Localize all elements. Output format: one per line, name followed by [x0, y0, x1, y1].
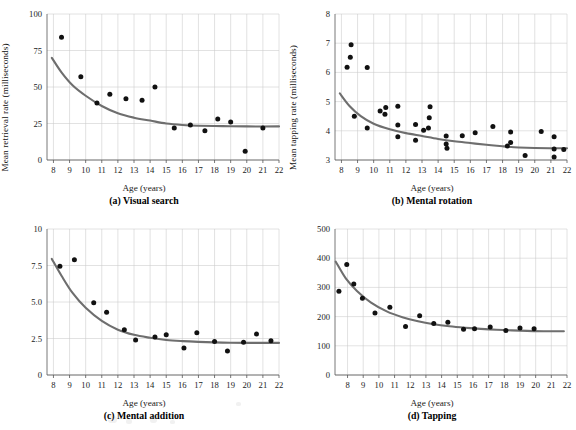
data-point [532, 326, 537, 331]
panel-caption-c: (c) Mental addition [0, 410, 288, 421]
svg-text:25: 25 [33, 119, 42, 129]
data-point [260, 125, 265, 130]
svg-text:13: 13 [422, 380, 431, 390]
x-tick-labels: 8910111213141516171819202122 [51, 160, 283, 175]
svg-text:17: 17 [194, 380, 203, 390]
svg-text:400: 400 [317, 253, 330, 263]
data-point [383, 105, 388, 110]
data-point [461, 327, 466, 332]
axis-lines [335, 14, 567, 160]
data-point [225, 348, 230, 353]
svg-text:15: 15 [453, 380, 462, 390]
svg-text:10: 10 [81, 380, 90, 390]
svg-text:14: 14 [437, 380, 446, 390]
data-point [372, 311, 377, 316]
data-point [473, 130, 478, 135]
svg-text:12: 12 [114, 380, 123, 390]
svg-text:14: 14 [146, 165, 155, 175]
svg-text:20: 20 [530, 165, 539, 175]
svg-text:19: 19 [226, 165, 235, 175]
data-point [523, 153, 528, 158]
scan-artifact-1 [236, 402, 241, 406]
data-point [488, 325, 493, 330]
svg-text:7.5: 7.5 [31, 261, 42, 271]
svg-text:8: 8 [51, 165, 55, 175]
data-point [417, 313, 422, 318]
data-point [445, 320, 450, 325]
svg-text:7: 7 [326, 38, 331, 48]
data-point [188, 122, 193, 127]
data-point [104, 310, 109, 315]
data-point [181, 345, 186, 350]
data-point [552, 146, 557, 151]
svg-text:4: 4 [326, 126, 331, 136]
data-points [336, 262, 536, 333]
svg-text:15: 15 [162, 380, 171, 390]
svg-text:10: 10 [33, 224, 42, 234]
gridlines [47, 14, 279, 160]
data-point [133, 337, 138, 342]
data-point [122, 327, 127, 332]
svg-text:22: 22 [275, 165, 284, 175]
data-point [254, 332, 259, 337]
svg-text:5: 5 [326, 97, 330, 107]
data-point [395, 134, 400, 139]
svg-text:20: 20 [531, 380, 540, 390]
data-point [349, 42, 354, 47]
svg-text:19: 19 [226, 380, 235, 390]
data-point [172, 125, 177, 130]
panel-tapping: Mean tapping rate (milliseconds) 0100200… [288, 215, 576, 430]
data-point [428, 104, 433, 109]
svg-text:500: 500 [317, 224, 330, 234]
svg-text:21: 21 [259, 380, 268, 390]
data-point [365, 125, 370, 130]
y-tick-labels: 0255075100 [29, 9, 42, 165]
data-point [508, 140, 513, 145]
svg-text:17: 17 [194, 165, 203, 175]
data-point [268, 338, 273, 343]
svg-text:100: 100 [317, 341, 330, 351]
data-point [345, 65, 350, 70]
svg-text:15: 15 [162, 165, 171, 175]
svg-text:9: 9 [361, 380, 365, 390]
data-point [365, 65, 370, 70]
svg-text:20: 20 [242, 380, 251, 390]
data-point [348, 55, 353, 60]
scan-artifact-4 [150, 417, 157, 423]
y-axis-label-c: Mean retrieval rate (milliseconds) [0, 0, 14, 215]
svg-text:12: 12 [406, 380, 415, 390]
svg-text:18: 18 [210, 380, 219, 390]
data-point [395, 104, 400, 109]
svg-text:0: 0 [38, 370, 42, 380]
svg-text:16: 16 [178, 380, 187, 390]
svg-text:6: 6 [326, 67, 331, 77]
data-point [427, 115, 432, 120]
svg-text:10: 10 [369, 165, 378, 175]
data-point [215, 117, 220, 122]
data-point [202, 128, 207, 133]
data-points [59, 35, 265, 154]
svg-text:19: 19 [516, 380, 525, 390]
data-point [91, 300, 96, 305]
data-point [352, 114, 357, 119]
data-point [194, 330, 199, 335]
svg-text:19: 19 [514, 165, 523, 175]
svg-text:18: 18 [498, 165, 507, 175]
scan-artifact-5 [170, 420, 175, 424]
gridlines [335, 14, 567, 160]
x-tick-labels: 8910111213141516171819202122 [345, 375, 571, 390]
svg-text:11: 11 [390, 380, 398, 390]
data-point [403, 324, 408, 329]
svg-text:9: 9 [355, 165, 359, 175]
y-tick-labels: 02.55.07.510 [31, 224, 42, 380]
data-point [212, 339, 217, 344]
data-point [552, 134, 557, 139]
svg-text:8: 8 [345, 380, 349, 390]
y-axis-label-d: Mean tapping rate (milliseconds) [288, 0, 302, 215]
data-point [107, 92, 112, 97]
svg-text:8: 8 [326, 9, 330, 19]
svg-text:9: 9 [67, 380, 71, 390]
four-panel-scatter-figure: Mean search rate (milliseconds) 02550751… [0, 0, 576, 430]
svg-text:22: 22 [563, 380, 572, 390]
data-point [413, 122, 418, 127]
